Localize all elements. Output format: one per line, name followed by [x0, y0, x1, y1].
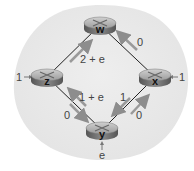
- input-label-z: 1: [16, 72, 22, 83]
- load-label-z-y: 0: [64, 110, 70, 121]
- load-label-y-z: 1 + e: [79, 92, 104, 103]
- input-label-x: 1: [179, 72, 185, 83]
- node-label-y: y: [99, 129, 105, 140]
- load-label-y-x: 0: [136, 110, 142, 121]
- node-label-w: w: [96, 24, 105, 35]
- input-label-y: e: [99, 150, 105, 161]
- load-label-x-w: 0: [137, 37, 143, 48]
- node-label-z: z: [44, 76, 50, 87]
- load-label-x-y: 1: [120, 92, 126, 103]
- node-label-x: x: [152, 76, 158, 87]
- load-label-z-w: 2 + e: [80, 54, 105, 65]
- routing-diagram: w z x y 2 + e 0 1 + e 0 1 0 1 1 e: [0, 0, 194, 171]
